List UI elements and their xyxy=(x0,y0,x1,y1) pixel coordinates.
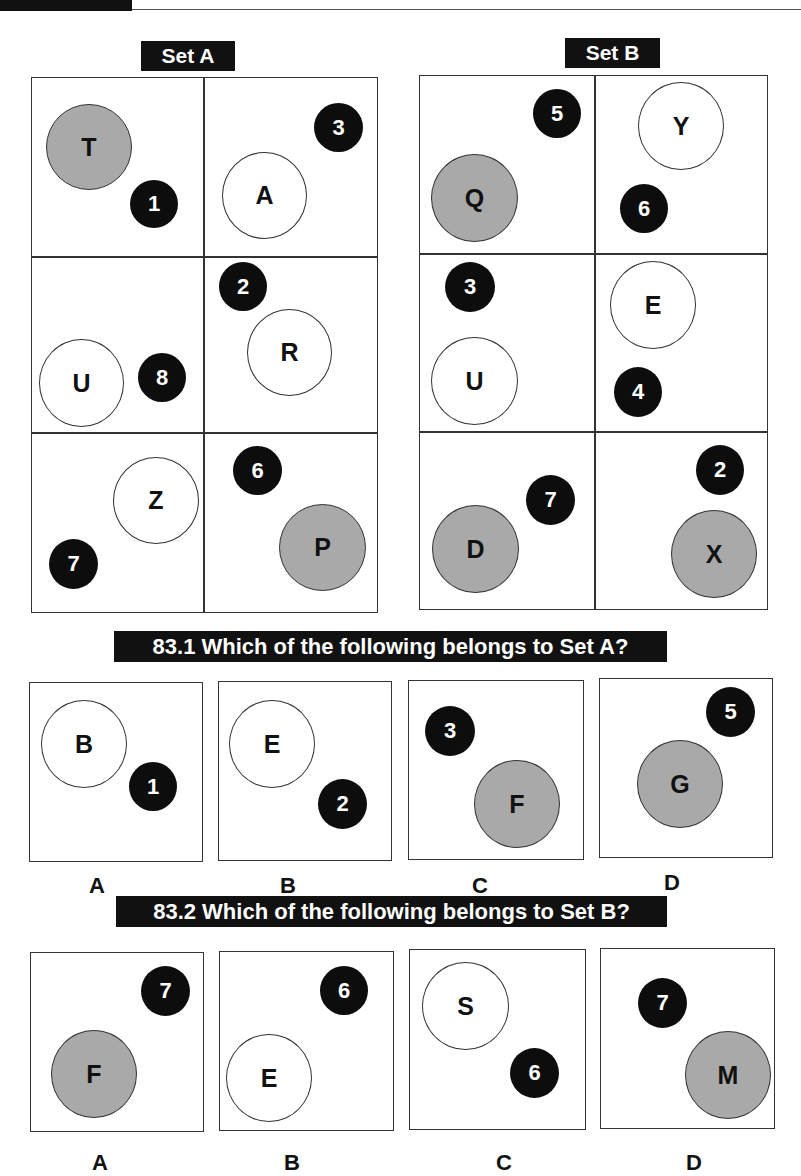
header-rule xyxy=(132,9,801,10)
letter-circle: M xyxy=(685,1031,771,1119)
letter-circle: E xyxy=(229,700,315,788)
letter: D xyxy=(466,535,484,564)
letter: Y xyxy=(673,112,690,141)
q1-option-a-label[interactable]: A xyxy=(77,873,117,899)
letter-circle: Z xyxy=(113,457,199,544)
number: 3 xyxy=(332,115,344,141)
number: 6 xyxy=(638,196,650,222)
letter-circle: S xyxy=(422,962,509,1050)
number-badge: 5 xyxy=(706,687,755,737)
letter: Q xyxy=(465,184,484,213)
number: 5 xyxy=(724,699,736,725)
number: 8 xyxy=(156,365,168,391)
number-badge: 7 xyxy=(141,966,190,1016)
number-badge: 6 xyxy=(620,184,668,233)
letter: P xyxy=(314,533,331,562)
letter: Z xyxy=(148,486,163,515)
number-badge: 2 xyxy=(219,262,267,311)
letter: G xyxy=(670,770,689,799)
number: 7 xyxy=(544,487,556,513)
letter-circle: E xyxy=(226,1034,312,1122)
set-a-divider xyxy=(31,256,378,258)
number: 2 xyxy=(237,274,249,300)
number-badge: 7 xyxy=(49,539,98,589)
letter-circle: U xyxy=(39,339,124,427)
number: 6 xyxy=(528,1060,540,1086)
number: 1 xyxy=(148,191,160,217)
q2-option-a-label[interactable]: A xyxy=(80,1150,120,1176)
letter-circle: E xyxy=(610,261,696,349)
q1-option-d-label[interactable]: D xyxy=(652,870,692,896)
letter-circle: G xyxy=(637,740,723,828)
number: 3 xyxy=(464,274,476,300)
number: 3 xyxy=(444,718,456,744)
number-badge: 7 xyxy=(526,475,575,525)
letter: T xyxy=(81,133,96,162)
number-badge: 3 xyxy=(314,103,363,152)
letter: F xyxy=(86,1060,101,1089)
number-badge: 1 xyxy=(130,180,178,228)
number-badge: 8 xyxy=(138,353,186,402)
number: 7 xyxy=(67,551,79,577)
number-badge: 6 xyxy=(320,966,368,1015)
number-badge: 5 xyxy=(533,89,581,138)
q2-option-d-label[interactable]: D xyxy=(674,1150,714,1176)
question-2-title: 83.2 Which of the following belongs to S… xyxy=(116,896,667,927)
number: 2 xyxy=(714,457,726,483)
number-badge: 6 xyxy=(233,446,282,495)
set-a-divider xyxy=(203,77,205,613)
number-badge: 2 xyxy=(318,779,367,829)
letter-circle: F xyxy=(474,760,560,848)
set-b-divider xyxy=(594,75,596,610)
letter: U xyxy=(72,369,90,398)
number-badge: 3 xyxy=(425,706,475,756)
number-badge: 2 xyxy=(696,445,744,495)
letter: B xyxy=(75,730,93,759)
number: 2 xyxy=(336,791,348,817)
letter: A xyxy=(255,181,273,210)
number: 7 xyxy=(656,990,668,1016)
letter-circle: D xyxy=(432,505,519,593)
header-bar xyxy=(0,0,132,11)
letter: S xyxy=(457,992,474,1021)
letter-circle: P xyxy=(279,504,366,591)
number: 5 xyxy=(551,101,563,127)
number-badge: 7 xyxy=(638,978,687,1028)
letter: U xyxy=(465,367,483,396)
letter-circle: Q xyxy=(431,154,518,242)
set-a-label: Set A xyxy=(141,41,235,71)
number: 6 xyxy=(251,458,263,484)
set-a-divider xyxy=(31,432,378,434)
number-badge: 1 xyxy=(129,762,177,811)
letter-circle: T xyxy=(46,104,132,190)
set-b-divider xyxy=(419,253,768,255)
number-badge: 4 xyxy=(614,367,662,417)
q2-option-c-label[interactable]: C xyxy=(484,1150,524,1176)
number: 1 xyxy=(147,774,159,800)
letter: M xyxy=(718,1061,739,1090)
letter: X xyxy=(706,540,723,569)
letter-circle: R xyxy=(247,309,332,396)
letter: E xyxy=(645,291,662,320)
set-b-divider xyxy=(419,431,768,433)
letter: E xyxy=(261,1064,278,1093)
letter-circle: A xyxy=(222,152,307,239)
letter: E xyxy=(264,730,281,759)
number: 6 xyxy=(338,978,350,1004)
letter: R xyxy=(280,338,298,367)
letter-circle: X xyxy=(671,510,757,598)
question-1-title: 83.1 Which of the following belongs to S… xyxy=(114,631,667,662)
letter-circle: Y xyxy=(638,82,724,170)
set-b-label: Set B xyxy=(565,38,660,68)
letter-circle: B xyxy=(41,700,127,788)
q2-option-b-label[interactable]: B xyxy=(272,1150,312,1176)
number: 4 xyxy=(632,379,644,405)
letter: F xyxy=(509,790,524,819)
letter-circle: U xyxy=(431,337,518,425)
number-badge: 3 xyxy=(445,262,495,312)
letter-circle: F xyxy=(51,1030,137,1118)
number-badge: 6 xyxy=(510,1048,559,1098)
number: 7 xyxy=(159,978,171,1004)
